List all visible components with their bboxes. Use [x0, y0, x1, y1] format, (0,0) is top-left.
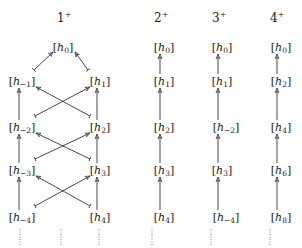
node-hm2: [h−2] — [9, 121, 36, 135]
node-h0: [h0] — [53, 41, 73, 55]
node-h1: [h1] — [212, 75, 232, 89]
node-h1: [h1] — [154, 75, 174, 89]
node-h4: [h4] — [90, 211, 110, 225]
edge-tail-arrow — [75, 52, 88, 70]
node-h2: [h2] — [271, 75, 291, 89]
node-h4: [h4] — [271, 121, 291, 135]
node-h2: [h2] — [154, 121, 174, 135]
node-hm3: [h−3] — [9, 164, 36, 178]
column-headers: 1+ 2+ 3+ 4+ — [57, 10, 284, 25]
column-header-1: 1+ — [57, 10, 71, 25]
column-header-2: 2+ — [154, 10, 168, 25]
node-h0: [h0] — [154, 41, 174, 55]
continuation-dots — [20, 229, 270, 246]
lattice-diagram: 1+ 2+ 3+ 4+ [h0][h−1][h1][h−2][h2][h−3][… — [0, 0, 302, 248]
node-hm4: [h−4] — [213, 211, 240, 225]
column-header-4: 4+ — [270, 10, 284, 25]
node-h0: [h0] — [271, 41, 291, 55]
node-hm4: [h−4] — [9, 211, 36, 225]
node-h6: [h6] — [271, 164, 291, 178]
column-header-3: 3+ — [212, 10, 226, 25]
edge-tail-arrow — [34, 52, 53, 70]
node-h8: [h8] — [271, 211, 291, 225]
node-h2: [h2] — [90, 121, 110, 135]
node-hm1: [h−1] — [9, 75, 36, 89]
node-h1: [h1] — [90, 75, 110, 89]
node-h3: [h3] — [154, 164, 174, 178]
node-h3: [h3] — [90, 164, 110, 178]
node-h0: [h0] — [212, 41, 232, 55]
node-h4: [h4] — [154, 211, 174, 225]
node-h3: [h3] — [212, 164, 232, 178]
node-hm2: [h−2] — [213, 121, 240, 135]
